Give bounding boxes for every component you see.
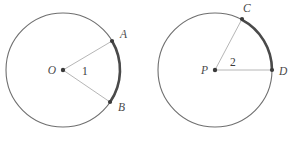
circle-p-point-d-dot: [270, 68, 274, 72]
circle-o-point-a-label: A: [119, 28, 128, 40]
circle-p-point-d-label: D: [278, 65, 288, 77]
circle-p-point-c-dot: [240, 17, 244, 21]
circle-o-arc-ab: [110, 41, 120, 102]
circle-o-angle-label: 1: [82, 65, 88, 77]
circle-o-center-dot: [61, 68, 65, 72]
circle-p-arc-cd: [242, 20, 272, 70]
circle-o-point-b-dot: [108, 100, 112, 104]
circle-p-radius-pc: [215, 19, 242, 70]
circle-o-group: O A B 1: [6, 13, 128, 127]
circle-o-point-a-dot: [110, 39, 114, 43]
circle-o-center-label: O: [48, 64, 57, 76]
circle-p-angle-label: 2: [230, 56, 236, 68]
circle-p-point-c-label: C: [243, 2, 251, 14]
circle-p-center-label: P: [200, 64, 208, 76]
circle-o-point-b-label: B: [118, 101, 125, 113]
geometry-figure: O A B 1 P C D 2: [0, 0, 294, 144]
circle-p-center-dot: [213, 68, 217, 72]
circle-p-group: P C D 2: [158, 2, 288, 127]
diagram-canvas: O A B 1 P C D 2: [0, 0, 294, 144]
